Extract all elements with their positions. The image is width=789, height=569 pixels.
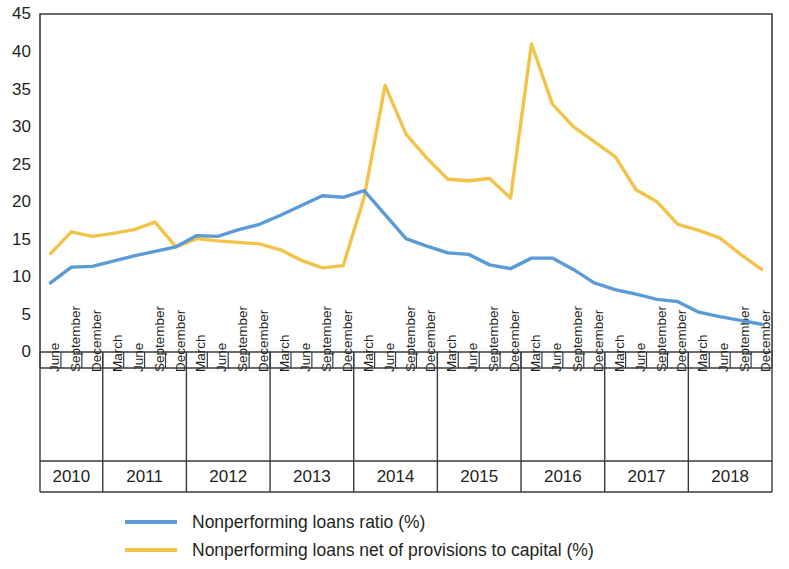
x-axis-month-label: September: [486, 305, 501, 372]
x-axis-month-label: March: [110, 334, 125, 372]
x-axis-year-label: 2013: [293, 467, 331, 486]
legend-label-0: Nonperforming loans ratio (%): [192, 512, 425, 532]
chart-figure: 051015202530354045JuneSeptemberDecember2…: [0, 0, 789, 569]
x-axis-year-label: 2018: [711, 467, 749, 486]
x-axis-month-label: September: [570, 305, 585, 372]
x-axis-month-label: December: [758, 309, 773, 372]
y-axis-tick-label: 45: [12, 4, 31, 23]
x-axis-month-label: December: [173, 309, 188, 372]
x-axis-month-label: September: [737, 305, 752, 372]
x-axis-month-label: March: [444, 334, 459, 372]
x-axis-month-label: March: [528, 334, 543, 372]
x-axis-month-label: December: [340, 309, 355, 372]
x-axis-month-label: March: [695, 334, 710, 372]
legend-label-1: Nonperforming loans net of provisions to…: [192, 540, 594, 560]
y-axis-tick-label: 40: [12, 42, 31, 61]
x-axis-month-label: March: [612, 334, 627, 372]
x-axis-month-label: September: [152, 305, 167, 372]
x-axis-month-label: March: [361, 334, 376, 372]
x-axis-month-label: December: [674, 309, 689, 372]
x-axis-month-label: September: [235, 305, 250, 372]
x-axis-month-label: December: [507, 309, 522, 372]
x-axis-month-label: September: [68, 305, 83, 372]
y-axis-tick-label: 0: [22, 342, 31, 361]
x-axis-month-label: December: [423, 309, 438, 372]
series-line-npl-net-provisions-capital: [50, 44, 761, 269]
x-axis-month-label: September: [654, 305, 669, 372]
x-axis-month-label: March: [277, 334, 292, 372]
x-axis-year-label: 2017: [628, 467, 666, 486]
x-axis-month-label: March: [193, 334, 208, 372]
y-axis-tick-label: 10: [12, 267, 31, 286]
y-axis-tick-label: 5: [22, 305, 31, 324]
x-axis-month-label: September: [319, 305, 334, 372]
x-axis-year-label: 2012: [209, 467, 247, 486]
y-axis-tick-label: 35: [12, 80, 31, 99]
y-axis-tick-label: 20: [12, 192, 31, 211]
line-chart: 051015202530354045JuneSeptemberDecember2…: [0, 0, 789, 569]
x-axis-month-label: September: [403, 305, 418, 372]
x-axis-year-label: 2010: [52, 467, 90, 486]
y-axis-tick-label: 15: [12, 230, 31, 249]
series-line-npl-ratio: [50, 191, 761, 325]
x-axis-year-label: 2015: [460, 467, 498, 486]
y-axis-tick-label: 30: [12, 117, 31, 136]
x-axis-month-label: December: [256, 309, 271, 372]
x-axis-year-label: 2011: [126, 467, 163, 486]
x-axis-year-label: 2016: [544, 467, 582, 486]
x-axis-year-label: 2014: [377, 467, 415, 486]
x-axis-month-label: December: [591, 309, 606, 372]
x-axis-month-label: December: [89, 309, 104, 372]
y-axis-tick-label: 25: [12, 155, 31, 174]
